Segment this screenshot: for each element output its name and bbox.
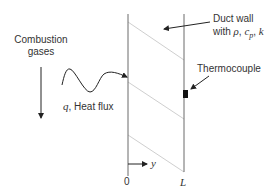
wall-hatching: [128, 22, 184, 172]
heat-flux-wavy-arrow: [62, 69, 127, 92]
with-text: with: [213, 26, 234, 37]
duct-wall-diagram: Combustion gases q, Heat flux Duct wall …: [0, 0, 278, 194]
duct-wall-label: Duct wall with ρ, cp, k: [213, 13, 264, 42]
duct-wall-line1: Duct wall: [213, 13, 264, 25]
combustion-gases-label: Combustion gases: [10, 34, 72, 58]
k-symbol: k: [259, 25, 264, 37]
thermocouple-label: Thermocouple: [197, 63, 261, 75]
origin-label: 0: [124, 176, 130, 188]
duct-wall-properties: with ρ, cp, k: [213, 25, 264, 42]
thermocouple-pointer-arrow: [191, 76, 209, 89]
y-axis-label: y: [151, 157, 156, 169]
thermocouple-sensor: [183, 90, 188, 98]
combustion-label-line2: gases: [10, 46, 72, 58]
heat-flux-text: , Heat flux: [69, 101, 114, 112]
duct-wall-pointer-arrow: [164, 22, 210, 29]
combustion-label-line1: Combustion: [10, 34, 72, 46]
heat-flux-label: q, Heat flux: [63, 100, 114, 113]
wall-thickness-label: L: [180, 176, 186, 188]
